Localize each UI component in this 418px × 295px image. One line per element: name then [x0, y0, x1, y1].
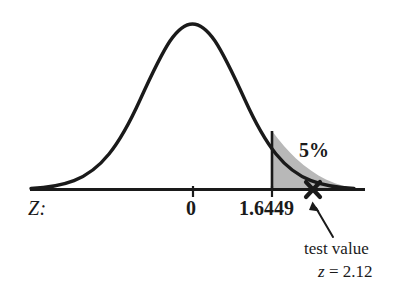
- tick-label-zero: 0: [186, 198, 196, 218]
- axis-label-z: Z:: [28, 198, 47, 218]
- annotation-value-number: 2.12: [343, 262, 373, 281]
- annotation-leader-arrow: [309, 202, 333, 238]
- annotation-value-symbol: z: [318, 262, 325, 281]
- normal-distribution-figure: Z: 0 1.6449 5% test value z = 2.12: [0, 0, 418, 295]
- annotation-title: test value: [304, 240, 369, 257]
- tail-area-percent-label: 5%: [299, 140, 329, 160]
- annotation-value: z = 2.12: [318, 263, 372, 280]
- annotation-value-equals: =: [325, 262, 343, 281]
- tick-label-critical-value: 1.6449: [239, 198, 294, 218]
- bell-curve-path: [31, 24, 354, 189]
